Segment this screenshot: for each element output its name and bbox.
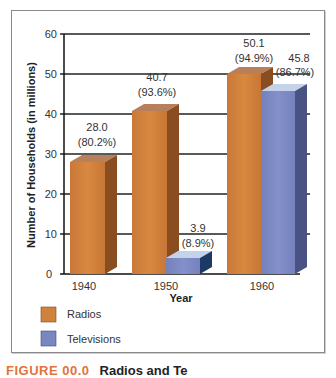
x-tick-1950: 1950 <box>154 280 178 292</box>
y-tick-30: 30 <box>45 148 57 160</box>
label-televisions-1960-percent: (86.7%) <box>276 66 315 78</box>
legend-swatch-televisions <box>41 331 56 346</box>
label-televisions-1950-percent: (8.9%) <box>182 237 214 249</box>
x-tick-1960: 1960 <box>250 280 274 292</box>
legend-label-radios: Radios <box>67 308 102 320</box>
label-radios-1960-percent: (94.9%) <box>235 52 274 64</box>
x-tick-labels: 1940 1950 1960 <box>72 280 274 292</box>
label-televisions-1950-value: 3.9 <box>190 222 205 234</box>
y-axis-label: Number of Households (in millions) <box>25 62 37 248</box>
label-radios-1950-value: 40.7 <box>146 71 167 83</box>
bar-televisions-1950 <box>166 251 212 274</box>
label-televisions-1960-value: 45.8 <box>288 52 309 64</box>
label-radios-1950-percent: (93.6%) <box>138 86 177 98</box>
label-radios-1940-value: 28.0 <box>86 121 107 133</box>
y-tick-60: 60 <box>45 28 57 40</box>
y-tick-50: 50 <box>45 68 57 80</box>
y-tick-40: 40 <box>45 108 57 120</box>
label-radios-1940-percent: (80.2%) <box>78 136 117 148</box>
bar-radios-1950 <box>132 104 179 274</box>
bar-radios-1940 <box>70 155 117 274</box>
label-radios-1960-value: 50.1 <box>243 37 264 49</box>
y-tick-0: 0 <box>46 268 52 280</box>
y-tick-20: 20 <box>45 188 57 200</box>
x-axis-label: Year <box>169 292 193 304</box>
y-tick-labels: 60 50 40 30 20 10 0 <box>45 28 57 280</box>
figure-caption: FIGURE 00.0Radios and Te <box>6 364 187 377</box>
figure-number: FIGURE 00.0 <box>6 363 90 378</box>
y-tick-10: 10 <box>45 228 57 240</box>
bar-televisions-1960 <box>261 84 307 274</box>
figure-title: Radios and Te <box>100 363 188 378</box>
legend-label-televisions: Televisions <box>67 333 121 345</box>
legend: Radios Televisions <box>41 307 121 346</box>
x-tick-1940: 1940 <box>72 280 96 292</box>
legend-swatch-radios <box>41 307 56 322</box>
